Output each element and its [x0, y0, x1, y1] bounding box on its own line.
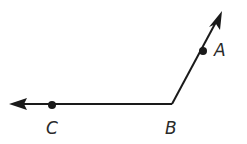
- arrowhead-upright-icon: [209, 11, 222, 30]
- label-b: B: [165, 118, 177, 138]
- angle-diagram: A B C: [0, 0, 247, 144]
- point-c: [48, 101, 56, 109]
- ray-ba: [172, 22, 216, 104]
- point-a: [199, 47, 207, 55]
- label-a: A: [213, 40, 226, 60]
- label-c: C: [46, 118, 58, 138]
